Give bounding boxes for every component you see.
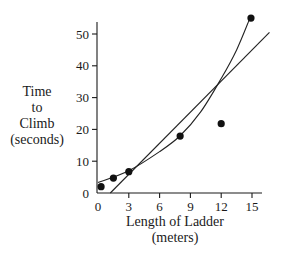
linear-fit-line: [110, 32, 269, 193]
x-tick-label: 3: [126, 199, 133, 214]
y-axis-label-line-3: Climb: [0, 116, 74, 132]
y-tick-label: 20: [76, 122, 89, 137]
y-tick-label: 0: [83, 186, 90, 201]
data-point: [218, 120, 225, 127]
y-axis-label-line-4: (seconds): [0, 132, 74, 148]
y-axis-label-line-2: to: [0, 100, 74, 116]
y-axis-label-line-1: Time: [0, 84, 74, 100]
x-tick-label: 0: [95, 199, 102, 214]
curved-fit-line: [98, 18, 250, 182]
x-axis-label-line-2: (meters): [110, 230, 240, 246]
x-tick-label: 15: [246, 199, 259, 214]
data-point: [97, 183, 104, 190]
x-tick-label: 9: [187, 199, 194, 214]
y-ticks: 01020304050: [76, 27, 97, 201]
y-axis-label: Time to Climb (seconds): [0, 84, 74, 148]
fit-lines: [98, 18, 269, 193]
x-ticks: 03691215: [95, 193, 259, 214]
y-tick-label: 50: [76, 27, 89, 42]
y-tick-label: 30: [76, 90, 89, 105]
y-tick-label: 40: [76, 58, 89, 73]
x-axis-label: Length of Ladder (meters): [110, 214, 240, 246]
x-tick-label: 6: [156, 199, 163, 214]
data-points: [97, 15, 254, 191]
data-point: [247, 15, 254, 22]
y-tick-label: 10: [76, 154, 89, 169]
x-tick-label: 12: [215, 199, 228, 214]
data-point: [125, 168, 132, 175]
data-point: [110, 174, 117, 181]
x-axis-label-line-1: Length of Ladder: [110, 214, 240, 230]
data-point: [177, 132, 184, 139]
